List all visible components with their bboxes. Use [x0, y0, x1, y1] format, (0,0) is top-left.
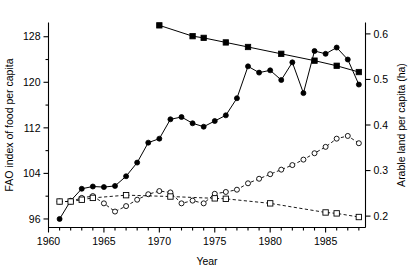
x-tick-label: 1960: [37, 235, 61, 247]
data-point: [356, 82, 361, 87]
data-point: [323, 51, 328, 56]
data-point: [345, 57, 350, 62]
data-point: [257, 176, 262, 181]
data-point: [157, 189, 162, 194]
data-point: [90, 184, 95, 189]
y2-axis-title: Arable land per capita (ha): [395, 63, 407, 187]
data-point: [279, 51, 284, 56]
data-point: [79, 197, 84, 202]
data-point: [57, 216, 62, 221]
data-point: [267, 201, 272, 206]
data-point: [301, 91, 306, 96]
data-point: [334, 136, 339, 141]
data-point: [323, 144, 328, 149]
axis-labels-group: 196019651970197519801985961041121201280.…: [3, 28, 407, 267]
data-point: [301, 157, 306, 162]
data-point: [290, 60, 295, 65]
data-point: [312, 151, 317, 156]
data-point: [334, 63, 339, 68]
x-tick-label: 1975: [203, 235, 227, 247]
y2-tick-label: 0.2: [374, 210, 389, 222]
data-point: [356, 69, 361, 74]
series-markers-0: [57, 45, 361, 221]
data-point: [246, 64, 251, 69]
data-point: [113, 209, 118, 214]
data-point: [334, 211, 339, 216]
x-tick-label: 1970: [148, 235, 172, 247]
data-point: [279, 78, 284, 83]
series-line-0: [60, 48, 359, 219]
data-point: [146, 140, 151, 145]
data-point: [157, 136, 162, 141]
data-point: [179, 201, 184, 206]
data-point: [190, 33, 195, 38]
y-tick-label: 104: [23, 167, 41, 179]
data-point: [179, 115, 184, 120]
data-point: [234, 96, 239, 101]
y2-tick-label: 0.5: [374, 73, 389, 85]
data-point: [68, 199, 73, 204]
data-point: [356, 141, 361, 146]
data-point: [212, 119, 217, 124]
data-point: [257, 70, 262, 75]
data-point: [124, 174, 129, 179]
series-markers-2: [57, 133, 361, 214]
y2-tick-label: 0.6: [374, 28, 389, 40]
data-point: [268, 68, 273, 73]
data-point: [190, 121, 195, 126]
x-tick-label: 1965: [92, 235, 116, 247]
data-point: [101, 201, 106, 206]
series-line-1: [159, 25, 359, 72]
data-point: [212, 196, 217, 201]
data-point: [201, 35, 206, 40]
data-point: [334, 45, 339, 50]
series-markers-1: [157, 23, 362, 75]
data-point: [113, 183, 118, 188]
data-point: [234, 187, 239, 192]
y-tick-label: 96: [29, 213, 41, 225]
data-point: [268, 172, 273, 177]
data-point: [201, 201, 206, 206]
data-point: [356, 214, 361, 219]
y-axis-title: FAO index of food per capita: [3, 58, 15, 191]
data-point: [90, 195, 95, 200]
y-tick-label: 128: [23, 30, 41, 42]
data-point: [157, 23, 162, 28]
data-point: [223, 189, 228, 194]
data-point: [279, 167, 284, 172]
data-point: [57, 199, 62, 204]
data-point: [245, 44, 250, 49]
data-point: [312, 48, 317, 53]
data-point: [223, 113, 228, 118]
data-point: [135, 197, 140, 202]
data-point: [168, 194, 173, 199]
data-point: [124, 204, 129, 209]
chart-figure: 196019651970197519801985961041121201280.…: [0, 0, 418, 276]
data-point: [101, 185, 106, 190]
data-point: [135, 160, 140, 165]
data-point: [246, 181, 251, 186]
y2-tick-label: 0.4: [374, 119, 389, 131]
data-point: [190, 198, 195, 203]
data-point: [201, 124, 206, 129]
x-axis-title: Year: [196, 255, 218, 267]
chart-svg: 196019651970197519801985961041121201280.…: [0, 0, 418, 276]
data-point: [323, 210, 328, 215]
x-tick-label: 1980: [258, 235, 282, 247]
data-point: [223, 196, 228, 201]
data-point: [223, 40, 228, 45]
data-point: [168, 117, 173, 122]
y-tick-label: 120: [23, 76, 41, 88]
series-group: [57, 23, 362, 222]
data-point: [290, 163, 295, 168]
series-line-2: [60, 136, 359, 212]
data-point: [123, 192, 128, 197]
data-point: [312, 58, 317, 63]
data-point: [345, 133, 350, 138]
data-point: [79, 186, 84, 191]
y-tick-label: 112: [24, 122, 41, 134]
y2-tick-label: 0.3: [374, 164, 389, 176]
x-tick-label: 1985: [314, 235, 338, 247]
series-markers-3: [57, 192, 362, 219]
